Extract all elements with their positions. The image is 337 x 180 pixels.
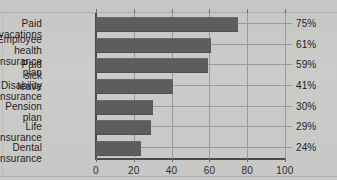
value-label: 30%	[296, 101, 316, 112]
value-label: 41%	[296, 80, 316, 91]
bar	[96, 79, 173, 94]
bar-row: Dental insurance24%	[96, 141, 285, 154]
x-tick-label: 80	[241, 165, 253, 176]
bar	[96, 58, 208, 73]
value-leader-line	[211, 44, 292, 45]
x-tick-mark	[96, 158, 97, 162]
bar-row: Life insurance29%	[96, 120, 285, 133]
bar-chart-figure: 020406080100 Paid vacations75%Employee h…	[0, 0, 337, 180]
x-tick-label: 0	[93, 165, 99, 176]
category-label: Life insurance	[0, 121, 42, 143]
value-leader-line	[141, 147, 292, 148]
category-label: Disability insurance	[0, 80, 42, 102]
value-leader-line	[173, 85, 292, 86]
x-tick-label: 100	[276, 165, 293, 176]
value-leader-line	[151, 126, 292, 127]
value-leader-line	[208, 64, 292, 65]
x-tick-mark	[247, 158, 248, 162]
bar	[96, 141, 141, 156]
x-tick-mark-top	[285, 9, 286, 13]
value-leader-line	[153, 106, 292, 107]
x-tick-mark-top	[209, 9, 210, 13]
plot-area: 020406080100 Paid vacations75%Employee h…	[96, 13, 285, 158]
x-tick-mark	[209, 158, 210, 162]
bar-row: Employee health insurance plan61%	[96, 38, 285, 51]
x-tick-mark	[134, 158, 135, 162]
value-label: 75%	[296, 18, 316, 29]
category-label: Dental insurance	[0, 142, 42, 164]
value-label: 24%	[296, 142, 316, 153]
page-frame-bottom-rule	[0, 176, 337, 177]
x-tick-label: 40	[166, 165, 178, 176]
category-label: Pension plan	[5, 101, 42, 123]
x-axis-line	[95, 158, 285, 160]
bar-row: Paid sick leave59%	[96, 58, 285, 71]
value-label: 29%	[296, 121, 316, 132]
x-tick-mark-top	[172, 9, 173, 13]
x-tick-mark	[172, 158, 173, 162]
bar	[96, 38, 211, 53]
x-tick-label: 60	[204, 165, 216, 176]
value-label: 59%	[296, 59, 316, 70]
x-tick-mark	[285, 158, 286, 162]
value-leader-line	[238, 23, 292, 24]
bar	[96, 17, 238, 32]
bar-row: Pension plan30%	[96, 100, 285, 113]
bar	[96, 120, 151, 135]
bar-row: Disability insurance41%	[96, 79, 285, 92]
x-tick-label: 20	[128, 165, 140, 176]
bar-row: Paid vacations75%	[96, 17, 285, 30]
x-tick-mark-top	[134, 9, 135, 13]
x-tick-mark-top	[247, 9, 248, 13]
x-tick-mark-top	[96, 9, 97, 13]
bar	[96, 100, 153, 115]
value-label: 61%	[296, 39, 316, 50]
